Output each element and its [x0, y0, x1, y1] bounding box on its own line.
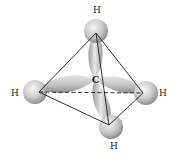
- carbon-label: C: [92, 75, 99, 85]
- hydrogen-sphere-left: [23, 80, 47, 104]
- hydrogen-label-bottom: H: [110, 141, 118, 151]
- hydrogen-label-top: H: [93, 5, 101, 15]
- hydrogen-sphere-top: [84, 19, 108, 43]
- edge-right-bottom: [109, 93, 143, 125]
- methane-tetrahedron-diagram: C H H H H: [0, 0, 174, 158]
- orbital-lobe-left: [40, 75, 95, 93]
- hydrogen-sphere-bottom: [99, 115, 123, 139]
- hydrogen-label-right: H: [159, 88, 167, 98]
- hydrogen-label-left: H: [11, 88, 19, 98]
- sp3-orbitals: [40, 34, 142, 124]
